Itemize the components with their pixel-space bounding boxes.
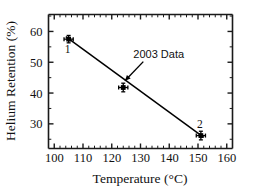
marker-square [66,37,71,42]
y-tick-label: 30 [30,117,43,131]
chart-figure: 100110120130140150160 30405060 12 2003 D… [0,0,256,188]
x-tick-label: 130 [131,151,150,165]
x-tick-label: 110 [74,151,92,165]
x-tick-label: 140 [160,151,179,165]
data-point-label: 2 [197,118,203,130]
y-tick-label: 60 [30,25,43,39]
x-tick-label: 100 [45,151,64,165]
y-tick-label: 40 [30,87,43,101]
x-tick-label: 120 [102,151,121,165]
data-point-label: 1 [65,43,71,55]
annotation-text: 2003 Data [133,48,185,60]
x-tick-label: 150 [189,151,208,165]
y-tick-label: 50 [30,56,43,70]
x-tick-label: 160 [217,151,236,165]
helium-retention-scatter-chart: 100110120130140150160 30405060 12 2003 D… [0,0,256,188]
x-axis-title: Temperature (°C) [93,171,188,186]
marker-square [121,85,126,90]
y-axis-title: Helium Retention (%) [3,21,18,141]
marker-square [198,133,203,138]
